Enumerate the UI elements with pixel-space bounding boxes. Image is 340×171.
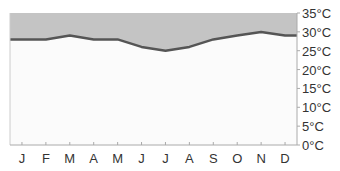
x-tick-label: J bbox=[19, 151, 26, 166]
x-tick-label: M bbox=[112, 151, 123, 166]
x-tick-label: O bbox=[232, 151, 242, 166]
y-tick-label: 0°C bbox=[302, 138, 324, 153]
x-tick-label: N bbox=[256, 151, 265, 166]
y-tick-label: 30°C bbox=[302, 25, 331, 40]
y-tick-label: 25°C bbox=[302, 44, 331, 59]
y-tick-label: 10°C bbox=[302, 100, 331, 115]
x-tick-label: A bbox=[185, 151, 194, 166]
y-tick-label: 15°C bbox=[302, 81, 331, 96]
temperature-chart: 0°C5°C10°C15°C20°C25°C30°C35°C JFMAMJJAS… bbox=[0, 0, 340, 171]
x-tick-label: M bbox=[64, 151, 75, 166]
x-tick-label: J bbox=[138, 151, 145, 166]
x-tick-label: D bbox=[280, 151, 289, 166]
x-tick-label: F bbox=[42, 151, 50, 166]
y-tick-label: 35°C bbox=[302, 6, 331, 21]
y-tick-label: 20°C bbox=[302, 63, 331, 78]
x-tick-label: S bbox=[209, 151, 218, 166]
x-ticks: JFMAMJJASOND bbox=[19, 142, 290, 166]
y-ticks: 0°C5°C10°C15°C20°C25°C30°C35°C bbox=[297, 6, 331, 153]
y-tick-label: 5°C bbox=[302, 119, 324, 134]
x-tick-label: J bbox=[162, 151, 169, 166]
x-tick-label: A bbox=[89, 151, 98, 166]
